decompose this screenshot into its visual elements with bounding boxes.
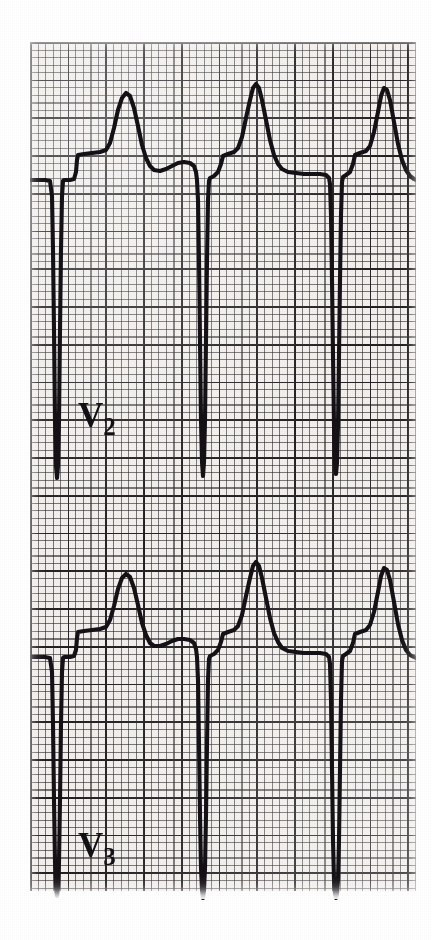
lead-label-v2-subscript: 2	[103, 413, 116, 440]
lead-label-v2: V2	[78, 398, 116, 439]
ecg-graph-paper	[30, 42, 416, 891]
ecg-figure: V2 V3	[0, 0, 432, 940]
lead-label-v3-letter: V	[78, 826, 103, 865]
lead-label-v3: V3	[78, 828, 116, 869]
lead-label-v2-letter: V	[78, 396, 103, 435]
lead-label-v3-subscript: 3	[103, 843, 116, 870]
